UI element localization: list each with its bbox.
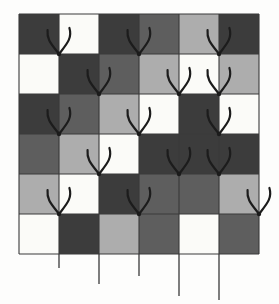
grid-cell [19,54,59,94]
fork-node [137,212,141,216]
fork-node [97,172,101,176]
grid-cell [219,214,259,254]
fork-node [217,172,221,176]
grid-cell [59,214,99,254]
fork-node [137,132,141,136]
grid-cell [19,214,59,254]
figure-canvas [0,0,279,304]
fork-node [137,52,141,56]
fork-node [257,212,261,216]
grid-cell [19,134,59,174]
fork-node [177,172,181,176]
fork-node [177,92,181,96]
fork-node [57,132,61,136]
grid-diagram-svg [0,0,279,304]
fork-node [217,92,221,96]
fork-node [57,212,61,216]
fork-node [57,52,61,56]
fork-arm-right [259,188,270,214]
stem-lines-layer [59,254,219,300]
grid-cell [139,214,179,254]
fork-node [97,92,101,96]
grid-cell [179,174,219,214]
grid-cell [179,214,219,254]
grid-cell [99,214,139,254]
fork-node [217,132,221,136]
fork-node [217,52,221,56]
